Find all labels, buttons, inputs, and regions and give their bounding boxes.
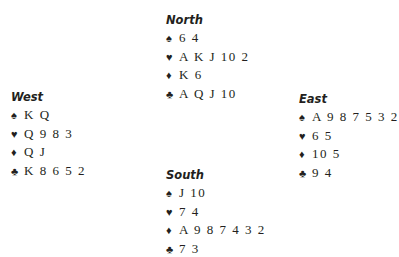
- diamond-icon: ♦: [166, 221, 179, 240]
- west-diamonds-row: ♦Q J: [11, 143, 86, 162]
- spade-icon: ♠: [166, 29, 179, 48]
- heart-icon: ♥: [166, 48, 179, 67]
- south-clubs: 7 3: [179, 240, 200, 257]
- spade-icon: ♠: [166, 184, 179, 203]
- club-icon: ♣: [299, 164, 312, 183]
- diamond-icon: ♦: [299, 145, 312, 164]
- west-hearts: Q 9 8 3: [24, 125, 73, 144]
- north-hand: North ♠6 4 ♥A K J 10 2 ♦K 6 ♣A Q J 10: [166, 13, 250, 103]
- west-clubs: K 8 6 5 2: [24, 162, 86, 181]
- south-hearts: 7 4: [179, 203, 200, 222]
- diamond-icon: ♦: [11, 143, 24, 162]
- east-hearts: 6 5: [312, 127, 333, 146]
- west-hand: West ♠K Q ♥Q 9 8 3 ♦Q J ♣K 8 6 5 2: [11, 90, 86, 180]
- club-icon: ♣: [166, 240, 179, 257]
- club-icon: ♣: [166, 85, 179, 104]
- east-spades: A 9 8 7 5 3 2: [312, 108, 399, 127]
- south-diamonds-row: ♦A 9 8 7 4 3 2: [166, 221, 266, 240]
- south-hearts-row: ♥7 4: [166, 203, 266, 222]
- east-hearts-row: ♥6 5: [299, 127, 399, 146]
- east-diamonds-row: ♦10 5: [299, 145, 399, 164]
- west-diamonds: Q J: [24, 143, 46, 162]
- south-spades: J 10: [179, 184, 206, 203]
- north-hearts-row: ♥A K J 10 2: [166, 48, 250, 67]
- west-clubs-row: ♣K 8 6 5 2: [11, 162, 86, 181]
- west-spades: K Q: [24, 106, 51, 125]
- south-spades-row: ♠J 10: [166, 184, 266, 203]
- heart-icon: ♥: [11, 125, 24, 144]
- spade-icon: ♠: [11, 106, 24, 125]
- north-spades: 6 4: [179, 29, 200, 48]
- south-hand: South ♠J 10 ♥7 4 ♦A 9 8 7 4 3 2 ♣7 3: [166, 168, 266, 257]
- club-icon: ♣: [11, 162, 24, 181]
- east-clubs: 9 4: [312, 164, 333, 183]
- west-spades-row: ♠K Q: [11, 106, 86, 125]
- north-diamonds-row: ♦K 6: [166, 66, 250, 85]
- spade-icon: ♠: [299, 108, 312, 127]
- east-spades-row: ♠A 9 8 7 5 3 2: [299, 108, 399, 127]
- south-title: South: [166, 168, 266, 183]
- east-title: East: [299, 92, 399, 107]
- west-title: West: [11, 90, 86, 105]
- east-clubs-row: ♣9 4: [299, 164, 399, 183]
- heart-icon: ♥: [299, 127, 312, 146]
- north-clubs: A Q J 10: [179, 85, 237, 104]
- north-title: North: [166, 13, 250, 28]
- diamond-icon: ♦: [166, 66, 179, 85]
- north-spades-row: ♠6 4: [166, 29, 250, 48]
- north-hearts: A K J 10 2: [179, 48, 250, 67]
- east-diamonds: 10 5: [312, 145, 341, 164]
- south-diamonds: A 9 8 7 4 3 2: [179, 221, 266, 240]
- north-clubs-row: ♣A Q J 10: [166, 85, 250, 104]
- north-diamonds: K 6: [179, 66, 203, 85]
- south-clubs-row: ♣7 3: [166, 240, 266, 257]
- east-hand: East ♠A 9 8 7 5 3 2 ♥6 5 ♦10 5 ♣9 4: [299, 92, 399, 182]
- heart-icon: ♥: [166, 203, 179, 222]
- west-hearts-row: ♥Q 9 8 3: [11, 125, 86, 144]
